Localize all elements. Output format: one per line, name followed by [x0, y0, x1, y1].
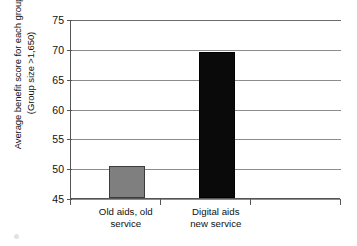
gridline-70	[71, 50, 341, 51]
x-tick-mark-2	[250, 199, 251, 205]
y-tick-mark-55	[67, 139, 72, 140]
y-tick-mark-75	[67, 20, 72, 21]
bar-chart-figure: Average benefit score for each group (Gr…	[0, 0, 357, 246]
gridline-45	[71, 199, 341, 200]
y-tick-mark-60	[67, 110, 72, 111]
y-tick-label-45: 45	[38, 194, 64, 205]
gridline-75	[71, 20, 341, 21]
y-tick-label-50: 50	[38, 164, 64, 175]
plot-inner	[71, 20, 340, 198]
x-tick-mark-3	[340, 199, 341, 205]
y-tick-label-75: 75	[38, 15, 64, 26]
x-tick-mark-0	[70, 199, 71, 205]
bar-old-aids-old-service	[109, 166, 145, 198]
y-tick-label-55: 55	[38, 134, 64, 145]
bar-digital-aids-new-service	[199, 52, 235, 198]
scan-artifact-speck	[14, 234, 19, 239]
y-tick-label-60: 60	[38, 105, 64, 116]
y-tick-label-65: 65	[38, 75, 64, 86]
x-tick-label-0: Old aids, old service	[81, 206, 171, 231]
y-tick-mark-65	[67, 80, 72, 81]
plot-area	[70, 20, 340, 199]
y-tick-label-70: 70	[38, 45, 64, 56]
x-tick-label-1: Digital aids new service	[171, 206, 261, 231]
y-tick-mark-70	[67, 50, 72, 51]
y-tick-mark-50	[67, 169, 72, 170]
x-tick-mark-1	[160, 199, 161, 205]
